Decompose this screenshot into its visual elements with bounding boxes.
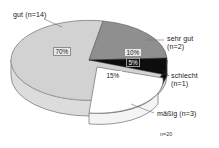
slice-label-schlecht-line2: (n=1) xyxy=(171,80,188,88)
slice-label-schlecht: schlecht (n=1) xyxy=(171,72,215,89)
slice-percent-gut: 70% xyxy=(53,47,71,56)
slice-label-maessig: mäßig (n=3) xyxy=(157,110,197,118)
pie-chart: gut (n=14) sehr gut (n=2) schlecht (n=1)… xyxy=(0,0,219,148)
slice-label-gut: gut (n=14) xyxy=(13,11,47,19)
slice-label-sehr-gut-line2: (n=2) xyxy=(167,43,184,51)
slice-percent-schlecht: 5% xyxy=(126,58,140,67)
chart-total-caption: n=20 xyxy=(160,131,172,137)
slice-percent-maessig: 15% xyxy=(104,71,122,80)
slice-label-schlecht-line1: schlecht xyxy=(171,72,198,80)
slice-label-sehr-gut: sehr gut (n=2) xyxy=(167,35,211,52)
slice-label-sehr-gut-line1: sehr gut xyxy=(167,35,193,43)
slice-percent-sehr-gut: 10% xyxy=(124,48,142,57)
